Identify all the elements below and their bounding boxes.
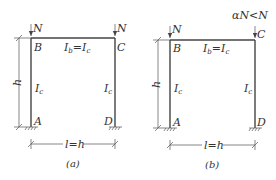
caption-a: (a) (66, 158, 80, 169)
left-column-stiffness: Ic (34, 82, 43, 96)
span-label: l=h (65, 138, 85, 151)
node-d: D (256, 116, 266, 129)
load-label-left: N (32, 22, 43, 35)
fixed-support-a (164, 128, 177, 131)
node-b: B (33, 41, 42, 54)
right-column-stiffness: Ic (103, 82, 112, 96)
portal-frame-diagrams: N N B C A D Ib=Ic Ic Ic (0, 0, 276, 180)
node-c: C (117, 41, 126, 54)
right-column-stiffness: Ic (243, 82, 252, 96)
figure-a: N N B C A D Ib=Ic Ic Ic (11, 22, 127, 169)
beam-stiffness-label: Ib=Ic (63, 41, 90, 55)
caption-b: (b) (205, 159, 219, 170)
height-label: h (11, 79, 24, 86)
figure-b: N αN<N B C A D Ib=Ic Ic Ic (150, 9, 268, 170)
fixed-support-d (109, 127, 122, 130)
load-label-right: αN<N (232, 9, 268, 22)
node-b: B (172, 42, 181, 55)
node-a: A (33, 115, 42, 128)
height-dimension: h (150, 37, 170, 131)
height-label: h (150, 81, 163, 88)
load-label-left: N (171, 23, 182, 36)
node-d: D (103, 115, 113, 128)
span-label: l=h (204, 139, 224, 152)
span-dimension: l=h (28, 138, 118, 151)
left-column-stiffness: Ic (173, 82, 182, 96)
fixed-support-d (249, 128, 262, 131)
beam-stiffness-label: Ib=Ic (202, 42, 229, 56)
load-label-right: N (116, 22, 127, 35)
fixed-support-a (25, 127, 38, 130)
height-dimension: h (11, 35, 31, 130)
span-dimension: l=h (167, 139, 258, 152)
node-c: C (257, 28, 266, 41)
node-a: A (172, 116, 181, 129)
